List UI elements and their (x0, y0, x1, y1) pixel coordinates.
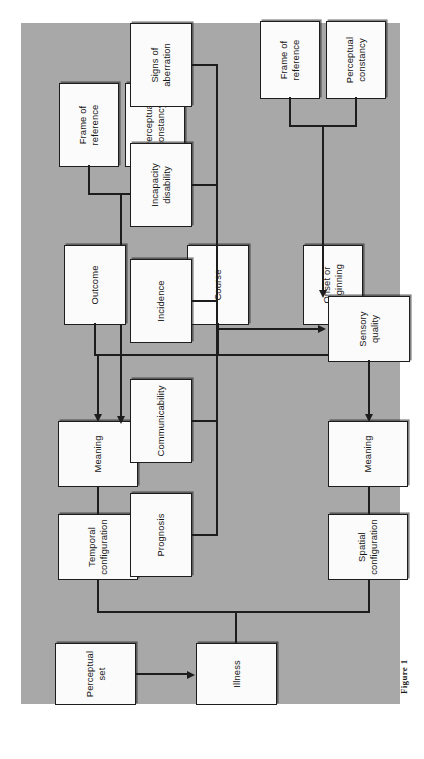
connector-bus-to-meaning-top (97, 354, 99, 415)
connector-symptom-bus (216, 64, 218, 536)
connector-incapacity-lead (192, 184, 218, 186)
arrowhead-top-pair-to-meaning (117, 416, 125, 424)
node-frame-of-reference-top: Frame ofreference (59, 83, 119, 167)
connector-bottom-pair-to-sensory (322, 125, 324, 291)
node-frame-of-reference-bottom: Frame ofreference (260, 21, 320, 99)
connector-frame-bottom-lead (289, 97, 291, 127)
node-signs-of-aberration: Signs ofaberration (130, 23, 192, 107)
connector-temporal-to-meaning-top (97, 486, 99, 514)
arrowhead-symptom-bus-to-sensory (318, 326, 326, 334)
node-meaning-top: Meaning (58, 421, 138, 487)
connector-perceptual-set-to-illness (136, 673, 189, 675)
connector-illness-to-temporal (97, 579, 99, 613)
node-incapacity-disability: Incapacitydisability (130, 143, 192, 227)
arrowhead-perceptual-set-to-illness (187, 671, 195, 679)
connector-communicability-lead (192, 420, 218, 422)
figure-page: Perceptualset Illness Temporalconfigurat… (0, 0, 424, 759)
connector-incidence-lead (192, 300, 218, 302)
connector-onset-course-outcome-bus (94, 354, 334, 356)
node-temporal-configuration: Temporalconfiguration (58, 514, 138, 580)
figure-caption: Figure 1 (399, 660, 409, 694)
node-course: Course (187, 245, 249, 325)
connector-constancy-bottom-lead (355, 97, 357, 127)
figure-panel: Perceptualset Illness Temporalconfigurat… (21, 23, 400, 704)
connector-illness-bus-stub (235, 611, 237, 643)
diagram-stage: Perceptualset Illness Temporalconfigurat… (42, 46, 421, 727)
node-outcome: Outcome (64, 245, 126, 325)
node-incidence: Incidence (130, 259, 192, 343)
node-perceptual-set: Perceptualset (55, 643, 136, 705)
connector-frame-top-lead (88, 165, 90, 195)
connector-prognosis-lead (192, 534, 218, 536)
connector-illness-bus-vertical (97, 611, 370, 613)
node-sensory-quality: Sensoryquality (328, 296, 410, 362)
node-meaning-bottom: Meaning (328, 421, 408, 487)
node-illness: Illness (196, 643, 277, 705)
connector-spatial-to-meaning-bottom (368, 486, 370, 514)
connector-aberration-lead (192, 64, 218, 66)
node-perceptual-constancy-bottom: Perceptualconstancy (326, 21, 386, 99)
connector-symptom-bus-drop (216, 328, 320, 330)
node-spatial-configuration: Spatialconfiguration (328, 514, 408, 580)
arrowhead-bus-to-meaning-top (94, 414, 102, 422)
connector-illness-to-spatial (368, 579, 370, 613)
connector-outcome-lead (94, 323, 96, 356)
connector-sensory-to-meaning-bottom (368, 360, 370, 415)
node-prognosis: Prognosis (130, 493, 192, 577)
node-communicability: Communicability (130, 379, 192, 463)
arrowhead-sensory-to-meaning-bottom (365, 414, 373, 422)
arrowhead-bottom-pair-to-sensory (319, 290, 327, 298)
